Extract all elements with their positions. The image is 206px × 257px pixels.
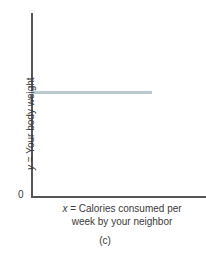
figure-caption: (c)	[31, 235, 179, 247]
x-axis-label: x = Calories consumed per week by your n…	[38, 202, 206, 228]
data-series-flat-line	[31, 91, 152, 94]
figure-panel-c: 0 y = Your body weight x = Calories cons…	[0, 0, 206, 257]
origin-label: 0	[18, 189, 24, 200]
y-axis-label-text: = Your body weight	[25, 77, 36, 162]
x-axis-label-text-line1: = Calories consumed per	[70, 203, 181, 214]
x-axis-label-text-line2: week by your neighbor	[38, 215, 206, 228]
x-axis-label-variable: x	[62, 203, 67, 214]
x-axis-line	[31, 196, 206, 198]
y-axis-label-variable: y	[25, 165, 36, 170]
y-axis-label: y = Your body weight	[25, 20, 36, 170]
